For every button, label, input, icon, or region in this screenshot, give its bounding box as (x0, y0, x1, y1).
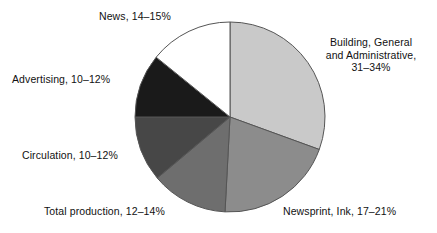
slice-label-advertising: Advertising, 10–12% (12, 73, 110, 86)
pie-chart-svg (0, 0, 437, 233)
slice-label-building-line2: and Administrative, (326, 49, 417, 61)
slice-label-news: News, 14–15% (99, 10, 171, 23)
slice-label-total-production: Total production, 12–14% (44, 205, 165, 218)
slice-label-building: Building, General and Administrative, 31… (308, 36, 434, 74)
slice-label-circulation: Circulation, 10–12% (22, 149, 118, 162)
slice-label-building-line3: 31–34% (351, 61, 390, 73)
slice-label-newsprint: Newsprint, Ink, 17–21% (283, 205, 396, 218)
pie-chart-figure: Building, General and Administrative, 31… (0, 0, 437, 233)
slice-label-building-line1: Building, General (330, 36, 412, 48)
pie-slice-group (135, 22, 325, 212)
